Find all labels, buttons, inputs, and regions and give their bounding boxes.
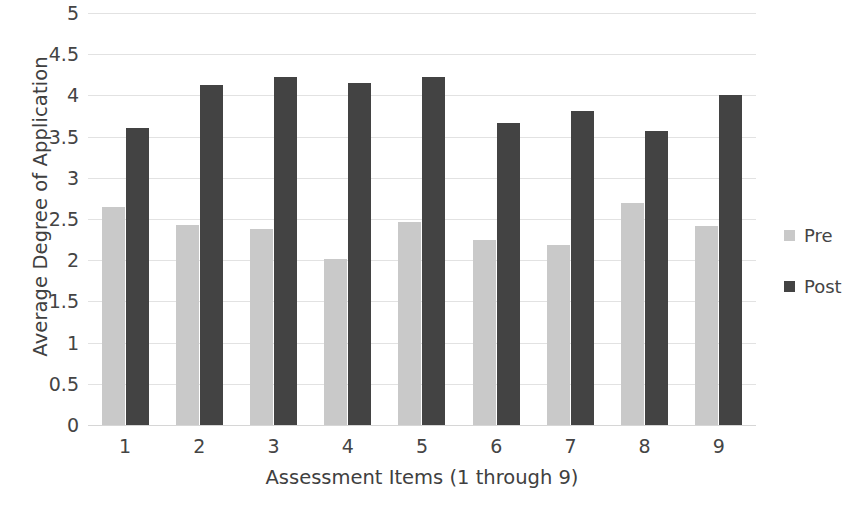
bar-group — [311, 13, 385, 425]
gridline — [88, 425, 756, 426]
bar-group — [236, 13, 310, 425]
y-axis-tick-label: 2 — [67, 249, 79, 271]
bar-pre-3 — [250, 229, 273, 425]
legend-swatch-icon — [784, 230, 795, 241]
bar-group — [459, 13, 533, 425]
x-axis-tick-label: 3 — [268, 435, 280, 457]
x-axis-tick-label: 4 — [342, 435, 354, 457]
bar-chart: Average Degree of Application 00.511.522… — [0, 0, 852, 509]
bar-post-6 — [497, 123, 520, 425]
bar-post-3 — [274, 77, 297, 425]
bar-post-4 — [348, 83, 371, 425]
x-axis-tick-label: 9 — [713, 435, 725, 457]
legend-label: Pre — [804, 225, 833, 246]
legend-swatch-icon — [784, 281, 795, 292]
bar-group — [682, 13, 756, 425]
y-axis-tick-label: 0 — [67, 414, 79, 436]
bar-post-9 — [719, 95, 742, 425]
bar-post-5 — [422, 77, 445, 425]
legend-item-pre: Pre — [784, 225, 842, 246]
y-axis-tick-label: 5 — [67, 2, 79, 24]
y-axis-tick-label: 4 — [67, 84, 79, 106]
bar-post-2 — [200, 85, 223, 425]
bar-pre-7 — [547, 245, 570, 425]
legend: PrePost — [784, 225, 842, 327]
bar-pre-2 — [176, 225, 199, 425]
x-axis-tick-label: 6 — [490, 435, 502, 457]
y-axis-tick-label: 3.5 — [49, 126, 79, 148]
x-axis-tick-label: 5 — [416, 435, 428, 457]
y-axis-tick-label: 1.5 — [49, 290, 79, 312]
y-axis-tick-label: 4.5 — [49, 43, 79, 65]
bar-post-7 — [571, 111, 594, 425]
bar-pre-9 — [695, 226, 718, 425]
bar-pre-5 — [398, 222, 421, 425]
bar-post-8 — [645, 131, 668, 425]
bar-pre-8 — [621, 203, 644, 425]
plot-area: 00.511.522.533.544.55 123456789 — [88, 13, 756, 425]
y-axis-tick-label: 2.5 — [49, 208, 79, 230]
bar-group — [162, 13, 236, 425]
x-axis-title: Assessment Items (1 through 9) — [88, 466, 756, 489]
bar-group — [88, 13, 162, 425]
y-axis-tick-label: 1 — [67, 332, 79, 354]
bar-pre-1 — [102, 207, 125, 425]
bar-group — [608, 13, 682, 425]
x-axis-tick-label: 2 — [193, 435, 205, 457]
bar-pre-4 — [324, 259, 347, 425]
legend-label: Post — [804, 276, 842, 297]
y-axis-tick-label: 0.5 — [49, 373, 79, 395]
x-axis-tick-label: 7 — [564, 435, 576, 457]
bar-group — [385, 13, 459, 425]
x-axis-tick-label: 1 — [119, 435, 131, 457]
y-axis-tick-label: 3 — [67, 167, 79, 189]
bar-group — [533, 13, 607, 425]
bar-post-1 — [126, 128, 149, 425]
x-axis-tick-label: 8 — [639, 435, 651, 457]
bar-pre-6 — [473, 240, 496, 425]
legend-item-post: Post — [784, 276, 842, 297]
